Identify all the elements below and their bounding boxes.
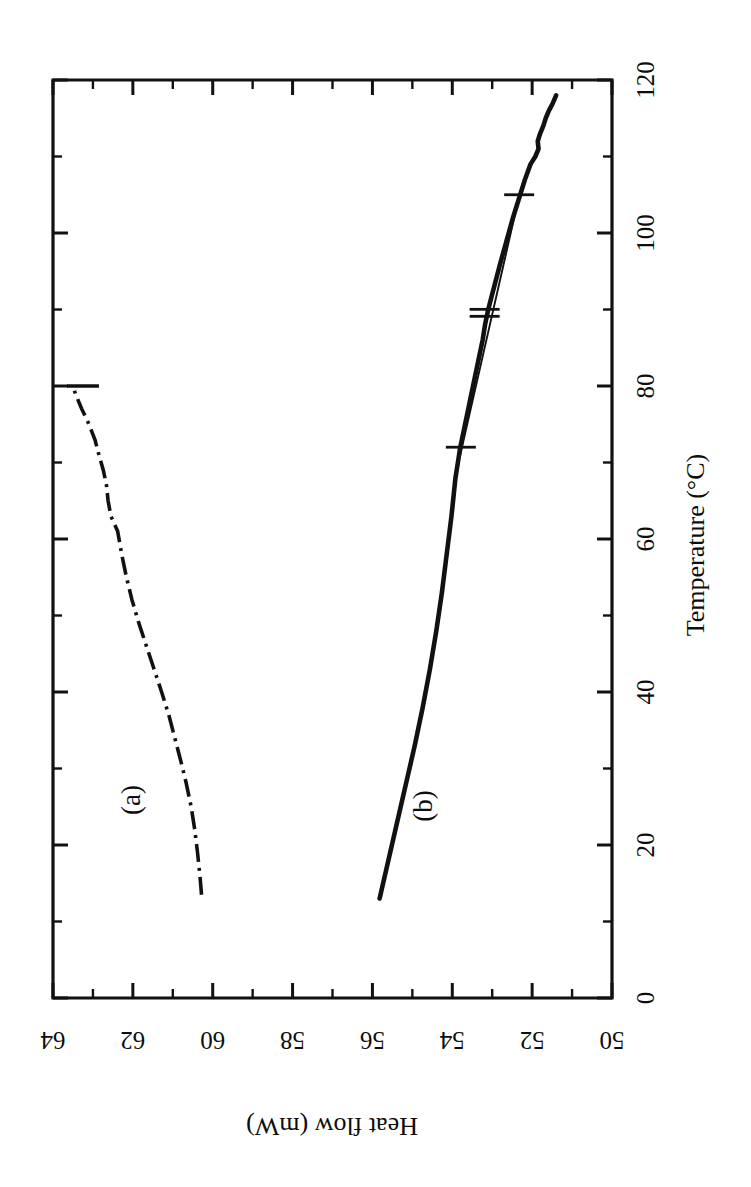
heat-flow-tick-label: 56 bbox=[360, 1027, 385, 1054]
dsc-thermogram-figure: 6462605856545250 020406080100120 (a) (b)… bbox=[0, 0, 751, 1187]
series-label-b: (b) bbox=[408, 790, 438, 821]
temperature-tick-label: 120 bbox=[632, 61, 659, 99]
heat-flow-tick-label: 62 bbox=[120, 1027, 145, 1054]
heat-flow-tick-label: 58 bbox=[280, 1027, 305, 1054]
temperature-tick-label: 80 bbox=[632, 374, 659, 399]
temperature-tick-label: 100 bbox=[632, 214, 659, 252]
temperature-tick-label: 20 bbox=[632, 833, 659, 858]
chart-canvas: 6462605856545250 020406080100120 (a) (b)… bbox=[0, 0, 751, 1187]
heat-flow-tick-label: 52 bbox=[520, 1027, 545, 1054]
series-label-a: (a) bbox=[116, 785, 146, 815]
heat-flow-axis-title: Heat flow (mW) bbox=[246, 1112, 418, 1141]
temperature-tick-label: 60 bbox=[632, 527, 659, 552]
heat-flow-tick-label: 54 bbox=[439, 1027, 465, 1054]
heat-flow-tick-label: 64 bbox=[40, 1027, 66, 1054]
temperature-tick-label: 0 bbox=[632, 992, 659, 1005]
heat-flow-tick-label: 60 bbox=[200, 1027, 225, 1054]
temperature-axis-title: Temperature (°C) bbox=[681, 454, 710, 637]
temperature-tick-label: 40 bbox=[632, 680, 659, 705]
heat-flow-tick-label: 50 bbox=[600, 1027, 625, 1054]
figure-background bbox=[0, 0, 751, 1187]
